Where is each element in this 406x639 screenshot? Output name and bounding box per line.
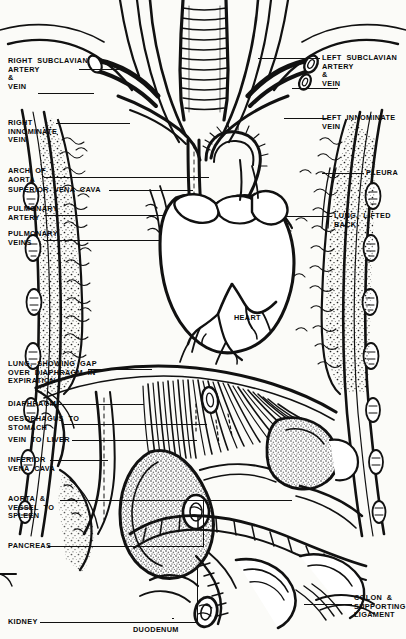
anatomy-figure: RIGHT SUBCLAVIAN ARTERY & VEIN RIGHT INN… — [0, 0, 406, 639]
leader-arch-of-aorta — [44, 177, 209, 178]
leader-lung-gap — [88, 369, 152, 370]
label-aorta-and-vessel-to-spleen: AORTA & VESSEL TO SPLEEN — [8, 495, 54, 521]
label-kidney: KIDNEY — [8, 618, 38, 627]
label-arch-of-aorta: ARCH OF AORTA — [8, 167, 46, 184]
leader-oesophagus-stomach — [62, 424, 207, 425]
label-pancreas: PANCREAS — [8, 542, 51, 551]
leader-left-subclavian — [258, 58, 320, 59]
label-lung-showing-gap-over-diaphragm: LUNG, SHOWING GAP OVER DIAPHRAGM IN EXPI… — [8, 360, 97, 386]
leader-colon-ligament — [304, 604, 352, 605]
label-pulmonary-artery: PULMONARY ARTERY — [8, 205, 58, 222]
label-superior-vena-cava: SUPERIOR VENA CAVA — [8, 186, 101, 195]
leader-pulmonary-veins — [44, 240, 160, 241]
label-diaphragm: DIAPHRAGM — [8, 400, 56, 409]
leader-lung-lifted-back — [286, 216, 332, 217]
leader-duodenum — [172, 618, 174, 619]
label-left-innominate-vein: LEFT INNOMINATE VEIN — [322, 114, 396, 131]
leader-diaphragm — [50, 404, 144, 405]
label-oesophagus-to-stomach: OESOPHAGUS TO STOMACH — [8, 415, 79, 432]
leader-pleura — [322, 173, 364, 174]
label-heart: HEART — [234, 314, 261, 323]
label-left-subclavian-artery-and-vein: LEFT SUBCLAVIAN ARTERY & VEIN — [322, 54, 397, 88]
leader-right-subclavian-vein — [38, 93, 94, 94]
label-right-subclavian-artery-and-vein: RIGHT SUBCLAVIAN ARTERY & VEIN — [8, 57, 88, 91]
label-inferior-vena-cava: INFERIOR VENA CAVA — [8, 456, 55, 473]
leader-kidney-vert — [197, 566, 198, 623]
leader-right-innominate-vein — [56, 123, 130, 124]
leader-aorta-spleen — [60, 500, 292, 501]
label-duodenum: DUODENUM — [133, 626, 179, 635]
label-pulmonary-veins: PULMONARY VEINS — [8, 230, 58, 247]
label-lung-lifted-back: LUNG, LIFTED BACK — [334, 212, 391, 229]
leader-kidney — [40, 622, 198, 623]
leader-vein-to-liver — [72, 440, 197, 441]
label-right-innominate-vein: RIGHT INNOMINATE VEIN — [8, 119, 57, 145]
leader-inferior-vena-cava — [50, 460, 108, 461]
leader-superior-vena-cava — [109, 190, 193, 191]
label-pleura: PLEURA — [366, 169, 398, 178]
label-colon-and-supporting-ligament: COLON & SUPPORTING LIGAMENT — [354, 594, 406, 620]
leader-pancreas — [48, 546, 204, 547]
label-vein-to-liver: VEIN TO LIVER — [8, 436, 70, 445]
leader-pancreas-vert — [203, 500, 204, 547]
leader-pulmonary-artery — [44, 215, 163, 216]
